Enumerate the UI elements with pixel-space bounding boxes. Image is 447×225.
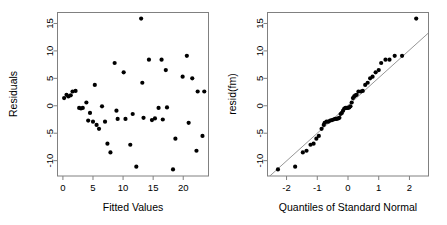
x-tick-label: 0 xyxy=(60,182,65,193)
data-point xyxy=(86,118,90,122)
data-point xyxy=(196,89,200,93)
x-tick-label: -2 xyxy=(282,182,290,193)
data-point xyxy=(81,106,85,110)
data-point xyxy=(114,109,118,113)
data-point xyxy=(161,117,165,121)
x-tick-label: 20 xyxy=(178,182,189,193)
data-point xyxy=(187,121,191,125)
y-tick-label: 15 xyxy=(44,18,55,29)
data-point xyxy=(113,61,117,65)
data-point xyxy=(123,117,127,121)
data-point xyxy=(116,117,120,121)
data-point xyxy=(194,149,198,153)
y-tick-label: 10 xyxy=(44,46,55,57)
data-point xyxy=(147,58,151,62)
data-point xyxy=(131,112,135,116)
data-point xyxy=(165,105,169,109)
data-point xyxy=(190,76,194,80)
data-point xyxy=(304,149,308,153)
x-tick-label: 10 xyxy=(118,182,129,193)
data-point xyxy=(108,150,112,154)
data-point xyxy=(128,143,132,147)
data-point xyxy=(311,142,315,146)
data-point xyxy=(140,81,144,85)
data-point xyxy=(361,89,365,93)
diagnostic-plot-figure: 05101520 -10-5051015 Fitted Values Resid… xyxy=(0,0,447,225)
data-point xyxy=(141,116,145,120)
data-point xyxy=(134,165,138,169)
data-point xyxy=(73,89,77,93)
data-point xyxy=(301,150,305,154)
right-x-axis-title: Quantiles of Standard Normal xyxy=(279,201,417,213)
data-point xyxy=(348,104,352,108)
y-tick-label: 0 xyxy=(254,103,265,108)
data-point xyxy=(317,134,321,138)
left-y-axis-title: Residuals xyxy=(7,71,19,117)
y-tick-label: 15 xyxy=(254,18,265,29)
left-x-axis-title: Fitted Values xyxy=(103,201,164,213)
data-point xyxy=(93,83,97,87)
y-tick-label: 5 xyxy=(254,76,265,81)
right-y-axis-title: resid(fm) xyxy=(226,73,238,114)
data-point xyxy=(383,58,387,62)
data-point xyxy=(171,167,175,171)
data-point xyxy=(95,123,99,127)
data-point xyxy=(105,142,109,146)
data-point xyxy=(69,93,73,97)
data-point xyxy=(173,137,177,141)
data-point xyxy=(202,89,206,93)
data-point xyxy=(379,61,383,65)
data-point xyxy=(414,16,418,20)
data-point xyxy=(319,127,323,131)
data-point xyxy=(200,134,204,138)
x-tick-label: 0 xyxy=(345,182,350,193)
x-tick-label: 1 xyxy=(376,182,381,193)
data-point xyxy=(153,116,157,120)
data-point xyxy=(84,100,88,104)
data-point xyxy=(337,116,341,120)
y-tick-label: -5 xyxy=(44,129,55,137)
data-point xyxy=(100,104,104,108)
y-tick-label: 10 xyxy=(254,46,265,57)
data-point xyxy=(350,100,354,104)
data-point xyxy=(139,16,143,20)
plot-canvas: 05101520 -10-5051015 Fitted Values Resid… xyxy=(0,0,447,225)
x-tick-label: 15 xyxy=(148,182,159,193)
x-tick-label: 5 xyxy=(90,182,95,193)
data-point xyxy=(156,106,160,110)
data-point xyxy=(91,120,95,124)
data-point xyxy=(387,58,391,62)
data-point xyxy=(159,58,163,62)
y-tick-label: 0 xyxy=(44,103,55,108)
data-point xyxy=(164,68,168,72)
data-point xyxy=(370,75,374,79)
data-point xyxy=(377,68,381,72)
data-point xyxy=(103,120,107,124)
data-point xyxy=(393,54,397,58)
data-point xyxy=(97,127,101,131)
data-point xyxy=(181,75,185,79)
data-point xyxy=(366,81,370,85)
x-tick-label: -1 xyxy=(313,182,321,193)
data-point xyxy=(122,70,126,74)
data-point xyxy=(293,165,297,169)
y-tick-label: -10 xyxy=(254,154,265,168)
data-point xyxy=(185,54,189,58)
y-tick-label: 5 xyxy=(44,76,55,81)
y-tick-label: -5 xyxy=(254,129,265,137)
data-point xyxy=(88,111,92,115)
y-tick-label: -10 xyxy=(44,154,55,168)
data-point xyxy=(276,167,280,171)
x-tick-label: 2 xyxy=(407,182,412,193)
data-point xyxy=(400,54,404,58)
